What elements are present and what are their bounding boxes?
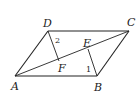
label-d: D [42,17,52,30]
label-f: F [57,62,66,75]
label-a: A [10,80,19,93]
angle-1-label: 1 [86,65,91,74]
parallelogram-diagram: D C A B E F 2 1 [0,0,138,105]
label-b: B [93,81,102,94]
angle-2-label: 2 [55,36,60,45]
diagram-canvas: D C A B E F 2 1 [0,0,138,105]
label-e: E [82,37,91,50]
label-c: C [127,16,136,29]
